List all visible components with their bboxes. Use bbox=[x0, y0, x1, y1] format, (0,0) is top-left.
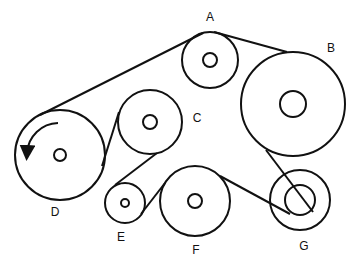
pulley-rim bbox=[105, 183, 145, 223]
pulley-rim bbox=[118, 90, 182, 154]
pulley-g bbox=[270, 170, 330, 230]
pulley-rim bbox=[270, 170, 330, 230]
pulley-d bbox=[15, 110, 105, 200]
pulley-label-e: E bbox=[117, 230, 125, 244]
pulley-c bbox=[118, 90, 182, 154]
pulley-rim bbox=[15, 110, 105, 200]
pulley-label-d: D bbox=[51, 205, 60, 219]
belt-diagram: ABCDEFG bbox=[0, 0, 356, 270]
pulley-label-b: B bbox=[327, 41, 335, 55]
pulley-label-a: A bbox=[206, 10, 214, 24]
pulley-label-c: C bbox=[193, 111, 202, 125]
pulley-rim bbox=[241, 52, 345, 156]
pulley-f bbox=[160, 166, 230, 236]
pulley-b bbox=[241, 52, 345, 156]
pulley-label-f: F bbox=[192, 243, 199, 257]
pulley-label-g: G bbox=[299, 239, 308, 253]
pulley-rim bbox=[160, 166, 230, 236]
pulley-e bbox=[105, 183, 145, 223]
belt-diagram-canvas bbox=[0, 0, 356, 270]
